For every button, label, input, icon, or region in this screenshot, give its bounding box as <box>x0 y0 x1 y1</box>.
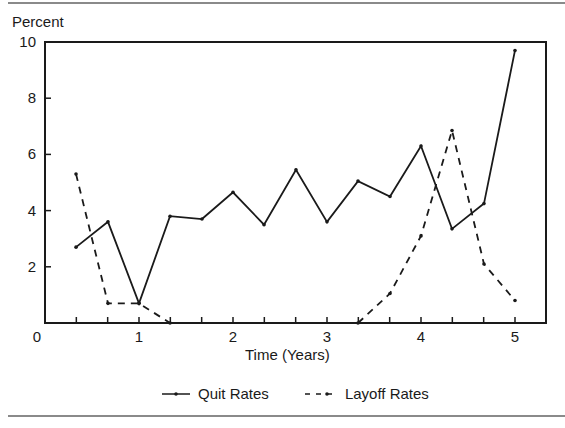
x-tick-label: 1 <box>129 328 149 345</box>
y-tick-label: 8 <box>6 89 36 106</box>
y-tick-label: 4 <box>6 202 36 219</box>
x-tick-label: 5 <box>505 328 525 345</box>
y-tick-label: 6 <box>6 145 36 162</box>
legend-layoff-label: Layoff Rates <box>345 385 429 402</box>
y-tick-label: 2 <box>6 258 36 275</box>
x-tick-label: 3 <box>317 328 337 345</box>
solid-line-icon <box>160 389 192 399</box>
x-tick-label: 2 <box>223 328 243 345</box>
legend: Quit Rates Layoff Rates <box>160 385 463 402</box>
x-tick-label: 0 <box>27 328 47 345</box>
legend-layoff: Layoff Rates <box>303 385 429 402</box>
line-chart <box>0 0 565 428</box>
dashed-line-icon <box>303 389 335 399</box>
y-tick-label: 10 <box>6 33 36 50</box>
legend-quit: Quit Rates <box>160 385 269 402</box>
legend-quit-label: Quit Rates <box>198 385 269 402</box>
x-tick-label: 4 <box>411 328 431 345</box>
x-axis-title: Time (Years) <box>245 346 330 363</box>
